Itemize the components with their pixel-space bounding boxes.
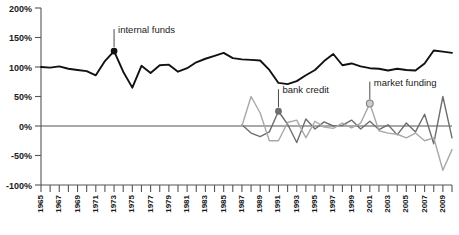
x-tick-label: 1983 xyxy=(200,194,209,212)
line-chart: 200%150%100%50%0%-50%-100%19651967196919… xyxy=(0,0,459,235)
y-tick-label: 100% xyxy=(9,63,32,73)
x-tick-label: 2005 xyxy=(401,194,410,212)
annotation-label-bank-credit: bank credit xyxy=(282,84,329,95)
y-tick-label: 200% xyxy=(9,4,32,14)
annotation-marker-market-funding xyxy=(366,100,373,107)
x-tick-label: 1995 xyxy=(310,194,319,212)
x-tick-label: 2009 xyxy=(438,194,447,212)
x-tick-label: 1993 xyxy=(292,194,301,212)
x-tick-label: 2001 xyxy=(365,194,374,212)
x-tick-label: 1973 xyxy=(109,194,118,212)
annotation-marker-bank-credit xyxy=(275,108,282,115)
x-tick-label: 1981 xyxy=(182,194,191,212)
y-tick-label: -50% xyxy=(11,151,32,161)
x-tick-label: 1977 xyxy=(146,194,155,212)
y-tick-label: 50% xyxy=(14,92,32,102)
x-tick-label: 1979 xyxy=(164,194,173,212)
x-tick-label: 1987 xyxy=(237,194,246,212)
x-tick-label: 1985 xyxy=(219,194,228,212)
x-tick-label: 1971 xyxy=(91,194,100,212)
y-tick-label: 150% xyxy=(9,33,32,43)
x-tick-label: 1965 xyxy=(36,194,45,212)
x-tick-label: 2007 xyxy=(420,194,429,212)
annotation-label-market-funding: market funding xyxy=(374,77,437,88)
x-tick-label: 1997 xyxy=(328,194,337,212)
x-tick-label: 1975 xyxy=(127,194,136,212)
x-tick-label: 1989 xyxy=(255,194,264,212)
annotation-marker-internal-funds xyxy=(111,48,118,55)
annotation-label-internal-funds: internal funds xyxy=(118,24,175,35)
y-tick-label: -100% xyxy=(6,181,32,191)
series-line-market-funding xyxy=(242,97,452,171)
x-tick-label: 2003 xyxy=(383,194,392,212)
x-tick-label: 1967 xyxy=(54,194,63,212)
x-tick-label: 1969 xyxy=(73,194,82,212)
chart-container: 200%150%100%50%0%-50%-100%19651967196919… xyxy=(0,0,459,235)
x-tick-label: 1999 xyxy=(347,194,356,212)
x-tick-label: 1991 xyxy=(273,194,282,212)
y-tick-label: 0% xyxy=(19,122,32,132)
